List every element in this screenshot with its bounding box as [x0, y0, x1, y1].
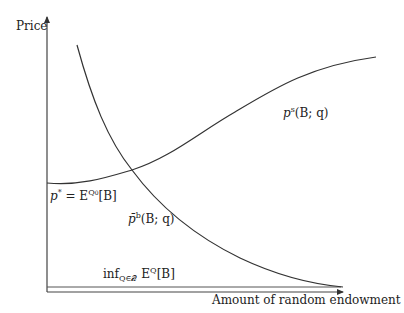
intercept-eq: = E: [62, 189, 88, 203]
intercept-args: [B]: [99, 189, 117, 203]
intercept-sup-group: Q0: [88, 188, 98, 197]
infimum-op: inf: [103, 267, 119, 281]
y-axis-label: Price: [16, 20, 47, 32]
buyer-label-args: (B; q): [141, 212, 175, 226]
price-diagram: Price Amount of random endowment ps(B; q…: [0, 0, 404, 313]
infimum-label: infQ∈𝒬 EQ[B]: [103, 268, 175, 280]
seller-label-base: p: [283, 106, 291, 120]
seller-label-args: (B; q): [295, 106, 329, 120]
diagram-canvas: [0, 0, 404, 313]
buyer-curve-label: p̄b(B; q): [128, 213, 175, 225]
intercept-lhs: p: [50, 189, 58, 203]
x-axis-label: Amount of random endowment: [212, 294, 401, 306]
intercept-label: p* = EQ0[B]: [50, 190, 117, 202]
infimum-args: [B]: [157, 267, 175, 281]
seller-curve-label: ps(B; q): [283, 107, 329, 119]
buyer-label-base: p̄: [128, 212, 136, 226]
infimum-E: E: [138, 267, 151, 281]
seller-curve: [47, 57, 376, 184]
infimum-sub: Q∈𝒬: [119, 274, 137, 283]
buyer-curve: [77, 45, 343, 287]
